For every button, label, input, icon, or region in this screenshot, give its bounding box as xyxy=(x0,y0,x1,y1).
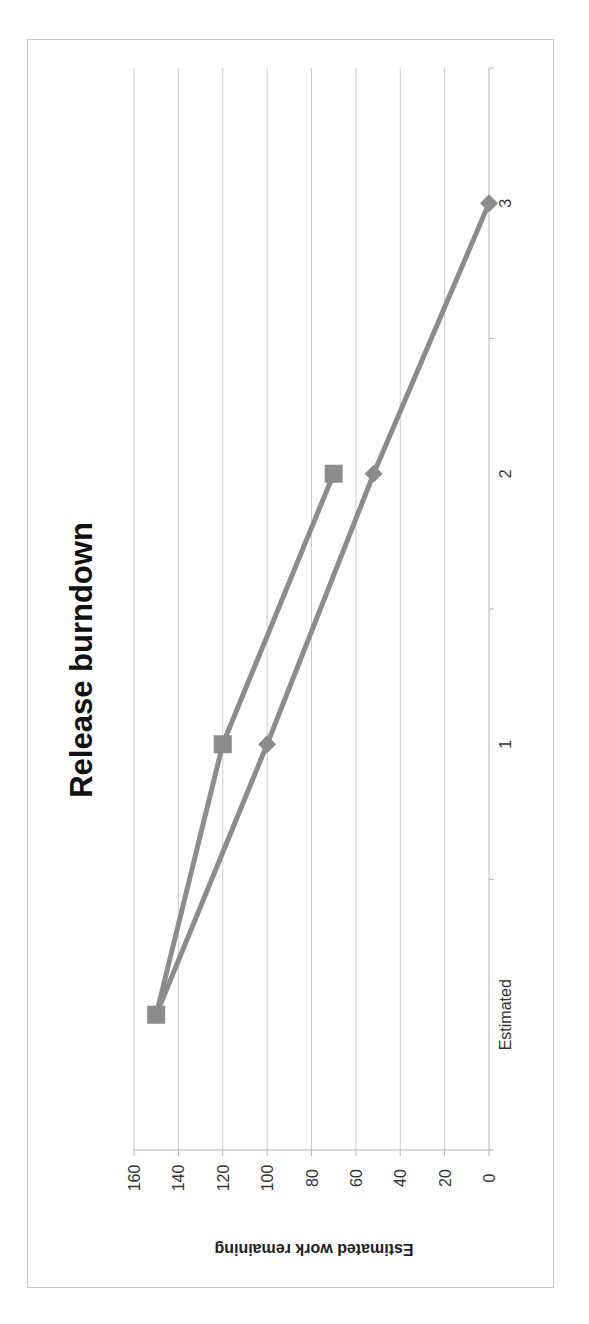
value-tick-label: 120 xyxy=(215,1165,232,1192)
diamond-marker xyxy=(258,735,276,753)
series-line xyxy=(156,203,489,1015)
value-tick-label: 140 xyxy=(170,1165,187,1192)
y-axis-title: Estimated work remaining xyxy=(214,1241,413,1258)
category-label: 2 xyxy=(497,469,514,478)
value-tick-label: 80 xyxy=(304,1169,321,1187)
square-marker xyxy=(214,735,232,753)
chart-title: Release burndown xyxy=(64,522,99,798)
value-tick-label: 160 xyxy=(126,1165,143,1192)
value-tick-label: 0 xyxy=(481,1173,498,1182)
category-label: 1 xyxy=(497,740,514,749)
data-series xyxy=(147,194,498,1024)
category-label: Estimated xyxy=(497,979,514,1050)
value-tick-label: 60 xyxy=(348,1169,365,1187)
axis-labels: 020406080100120140160Estimated123 xyxy=(126,199,514,1192)
diamond-marker xyxy=(480,194,498,212)
value-tick-label: 40 xyxy=(392,1169,409,1187)
square-marker xyxy=(325,465,343,483)
series-line xyxy=(156,474,334,1015)
value-tick-label: 100 xyxy=(259,1165,276,1192)
diamond-marker xyxy=(365,465,383,483)
axes xyxy=(134,68,494,1156)
value-tick-label: 20 xyxy=(437,1169,454,1187)
category-label: 3 xyxy=(497,199,514,208)
gridlines xyxy=(134,68,445,1150)
chart-canvas: 020406080100120140160Estimated123 Releas… xyxy=(0,0,589,1324)
